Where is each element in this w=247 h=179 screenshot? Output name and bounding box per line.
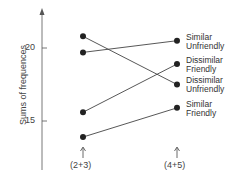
x-label-left: (2+3) [70,160,91,170]
series-line [80,33,180,87]
y-axis-label: Sums of frequences [18,40,28,130]
data-point [174,38,180,44]
series-line [80,105,180,140]
series-line [80,38,180,56]
data-point [80,134,86,140]
data-point [174,61,180,67]
legend-dissimilar-unfriendly: DissimilarUnfriendly [186,76,224,94]
data-point [174,105,180,111]
x-label-right: (4+5) [164,160,185,170]
x-arrow-left [81,147,86,158]
x-arrow-right [175,147,180,158]
legend-similar-unfriendly: SimilarUnfriendly [186,33,224,51]
series-line [80,61,180,115]
data-point [80,33,86,39]
data-point [80,109,86,115]
legend-similar-friendly: SimilarFriendly [186,100,216,118]
data-point [80,49,86,55]
y-axis-arrow-icon [40,8,45,15]
legend-dissimilar-friendly: DissimilarFriendly [186,56,223,74]
data-point [174,82,180,88]
